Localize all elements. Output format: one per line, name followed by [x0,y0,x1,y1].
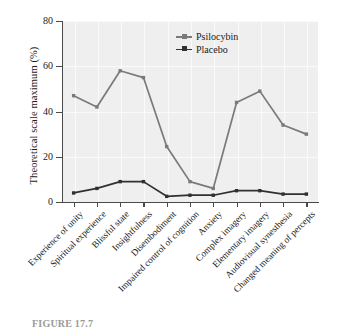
gridline-vertical [284,21,285,202]
y-tick-mark [56,21,62,22]
x-tick-mark [283,202,284,207]
chart-legend: PsilocybinPlacebo [176,31,238,56]
x-tick-mark [74,202,75,207]
gridline-vertical [168,21,169,202]
y-tick-mark [56,157,62,158]
gridline-vertical [261,21,262,202]
x-tick-mark [120,202,121,207]
x-tick-mark [97,202,98,207]
x-tick-mark [260,202,261,207]
y-tick-label: 40 [13,106,53,117]
legend-marker-icon [176,32,192,41]
x-tick-mark [306,202,307,207]
gridline-vertical [98,21,99,202]
x-tick-mark [143,202,144,207]
figure-caption: FIGURE 17.7 [32,318,93,329]
y-tick-mark [56,202,62,203]
legend-label: Psilocybin [196,31,238,43]
gridline-vertical [121,21,122,202]
x-tick-mark [167,202,168,207]
legend-item-placebo[interactable]: Placebo [176,44,238,56]
y-tick-label: 80 [13,15,53,26]
y-tick-mark [56,112,62,113]
y-tick-label: 20 [13,151,53,162]
gridline-vertical [307,21,308,202]
legend-marker-icon [176,45,192,54]
legend-item-psilocybin[interactable]: Psilocybin [176,31,238,43]
gridline-vertical [75,21,76,202]
legend-label: Placebo [196,44,228,56]
y-tick-mark [56,66,62,67]
x-tick-mark [190,202,191,207]
y-tick-label: 0 [13,196,53,207]
x-tick-mark [213,202,214,207]
y-tick-label: 60 [13,60,53,71]
x-tick-mark [237,202,238,207]
gridline-vertical [144,21,145,202]
